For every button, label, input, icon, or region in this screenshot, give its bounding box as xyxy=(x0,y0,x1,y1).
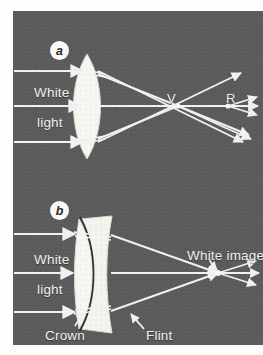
white-image-focus-point xyxy=(215,270,221,276)
panel-tag-a: a xyxy=(50,41,69,60)
panel-tag-b: b xyxy=(50,201,69,220)
incoming-rays-b xyxy=(14,234,75,312)
label-light-a: light xyxy=(37,115,63,130)
panel-a-group xyxy=(14,54,258,159)
figure-chromatic-aberration: a b White light V R White light White im… xyxy=(0,0,263,355)
incoming-rays-a xyxy=(14,71,83,142)
label-white-image: White image xyxy=(187,248,263,263)
flint-leader-arrow xyxy=(131,314,144,329)
label-flint: Flint xyxy=(146,328,173,343)
label-violet-focus: V xyxy=(167,91,176,106)
label-red-focus: R xyxy=(226,91,236,106)
label-white-a: White xyxy=(34,85,70,100)
panel-b-group xyxy=(14,216,259,333)
violet-focus-point xyxy=(175,103,180,108)
post-focus-rays-b xyxy=(218,261,259,285)
label-white-b: White xyxy=(34,252,70,267)
figure-panel-background: a b White light V R White light White im… xyxy=(13,11,263,345)
converging-rays-b xyxy=(111,235,218,311)
label-crown: Crown xyxy=(45,328,85,343)
label-light-b: light xyxy=(37,282,63,297)
